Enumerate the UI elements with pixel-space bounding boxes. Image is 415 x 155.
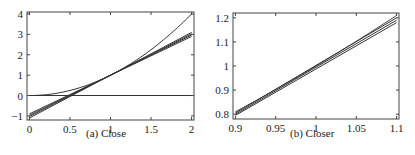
y-tick-label: 3: [18, 28, 24, 40]
x-tick-label: 0.9: [229, 122, 243, 134]
chart-canvas: 00.511.52−101234 0.90.9511.051.10.80.911…: [0, 0, 415, 155]
y-tick-label: 0: [18, 90, 24, 102]
series-line-4: [29, 32, 191, 118]
y-tick-label: 0.8: [215, 108, 229, 120]
x-tick-label: 1.5: [144, 123, 158, 135]
y-tick-label: 2: [18, 49, 24, 61]
y-tick-label: 1.2: [215, 12, 229, 24]
x-tick-label: 0.95: [266, 122, 286, 134]
y-tick-label: 4: [18, 8, 24, 20]
y-tick-label: 1.1: [215, 36, 229, 48]
x-tick-label: 1.1: [390, 122, 404, 134]
series-line-3: [235, 23, 396, 116]
caption-close: (a) Close: [86, 127, 126, 139]
x-tick-label: 0: [27, 123, 33, 135]
plot-closer: 0.90.9511.051.10.80.911.11.2: [215, 12, 403, 134]
plot-close: 00.511.52−101234: [11, 8, 194, 135]
y-tick-label: 1: [224, 60, 230, 72]
y-tick-label: −1: [11, 110, 23, 122]
series-line-2: [235, 20, 396, 114]
x-tick-label: 1.05: [347, 122, 367, 134]
x-tick-label: 0.5: [63, 123, 77, 135]
series-group: [235, 15, 396, 115]
series-group: [29, 14, 191, 118]
series-line-1: [235, 18, 396, 113]
series-curve: [235, 15, 396, 111]
series-curve: [29, 14, 191, 96]
y-tick-label: 0.9: [215, 84, 229, 96]
x-tick-label: 2: [189, 123, 195, 135]
y-tick-label: 1: [18, 69, 24, 81]
caption-closer: (b) Closer: [290, 127, 334, 139]
